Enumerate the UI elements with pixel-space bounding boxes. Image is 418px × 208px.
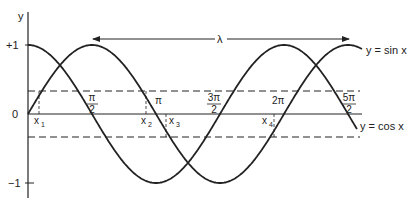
x2-label: x 2 (141, 115, 152, 128)
svg-text:x: x (262, 115, 267, 126)
svg-text:1: 1 (41, 121, 45, 128)
y-tick-minus-one: −1 (8, 177, 21, 189)
x-tick-pi-over-2: π 2 (87, 92, 98, 115)
svg-text:5π: 5π (343, 92, 356, 103)
sine-cosine-diagram: y +1 0 −1 λ π 2 π 3π 2 2π 5π 2 x 1 x 2 (0, 0, 418, 208)
svg-text:3: 3 (176, 121, 180, 128)
svg-text:x: x (34, 115, 39, 126)
svg-text:2: 2 (148, 121, 152, 128)
y-tick-zero: 0 (12, 108, 18, 120)
svg-text:x: x (169, 115, 174, 126)
svg-text:2: 2 (89, 104, 95, 115)
x-tick-5pi-over-2: 5π 2 (342, 92, 356, 115)
x-tick-3pi-over-2: 3π 2 (207, 92, 221, 115)
svg-text:2: 2 (346, 104, 352, 115)
sin-curve-label: y = sin x (366, 44, 407, 56)
svg-text:2: 2 (211, 104, 217, 115)
x-tick-2pi: 2π (272, 95, 285, 106)
svg-text:x: x (141, 115, 146, 126)
x3-label: x 3 (169, 115, 180, 128)
cos-curve-label: y = cos x (360, 120, 404, 132)
x4-label: x 4 (262, 115, 273, 128)
y-axis-label: y (18, 10, 24, 22)
svg-text:π: π (89, 92, 96, 103)
svg-text:4: 4 (269, 121, 273, 128)
wavelength-label: λ (217, 33, 223, 45)
x-tick-pi: π (155, 95, 162, 106)
y-tick-plus-one: +1 (6, 39, 19, 51)
svg-text:3π: 3π (208, 92, 221, 103)
x1-label: x 1 (34, 115, 45, 128)
